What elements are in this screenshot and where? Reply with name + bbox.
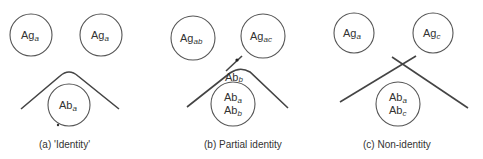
spur-tip-dot — [235, 58, 238, 61]
antigen-well-right-label: Agc — [423, 27, 440, 41]
antibody-well-label: Aba — [59, 99, 77, 113]
antigen-well-left-label: Aga — [21, 29, 39, 43]
immunodiffusion-diagram: Aga Aga Aba (a) 'Identity' Agab Agac Abb… — [0, 0, 483, 159]
antigen-well-right-label: Agac — [250, 30, 272, 44]
antibody-well-label-1: Aba — [389, 91, 407, 105]
antibody-well-label-2: Abc — [389, 104, 406, 118]
antigen-well-right-label: Aga — [91, 29, 109, 43]
caption-identity: (a) 'Identity' — [39, 139, 90, 150]
panel-non-identity: Aga Agc Aba Abc (c) Non-identity — [334, 13, 468, 150]
antibody-well-label-2: Abb — [224, 104, 242, 118]
antigen-well-left-label: Agab — [180, 32, 203, 46]
antigen-well-left-label: Aga — [343, 27, 361, 41]
caption-partial-identity: (b) Partial identity — [204, 139, 282, 150]
panel-partial-identity: Agab Agac Abb Aba Abb (b) Partial identi… — [171, 14, 288, 150]
well-marker-dot — [57, 124, 59, 126]
panel-identity: Aga Aga Aba (a) 'Identity' — [10, 14, 122, 150]
caption-non-identity: (c) Non-identity — [363, 139, 431, 150]
antibody-well-label-1: Aba — [224, 91, 242, 105]
